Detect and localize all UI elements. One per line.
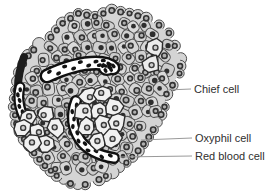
figure: Chief cell Oxyphil cell Red blood cell: [0, 0, 269, 195]
label-oxyphil-cell: Oxyphil cell: [195, 132, 251, 144]
parathyroid-tissue-illustration: [0, 0, 269, 195]
label-chief-cell: Chief cell: [194, 83, 239, 95]
label-red-blood-cell: Red blood cell: [195, 150, 265, 162]
